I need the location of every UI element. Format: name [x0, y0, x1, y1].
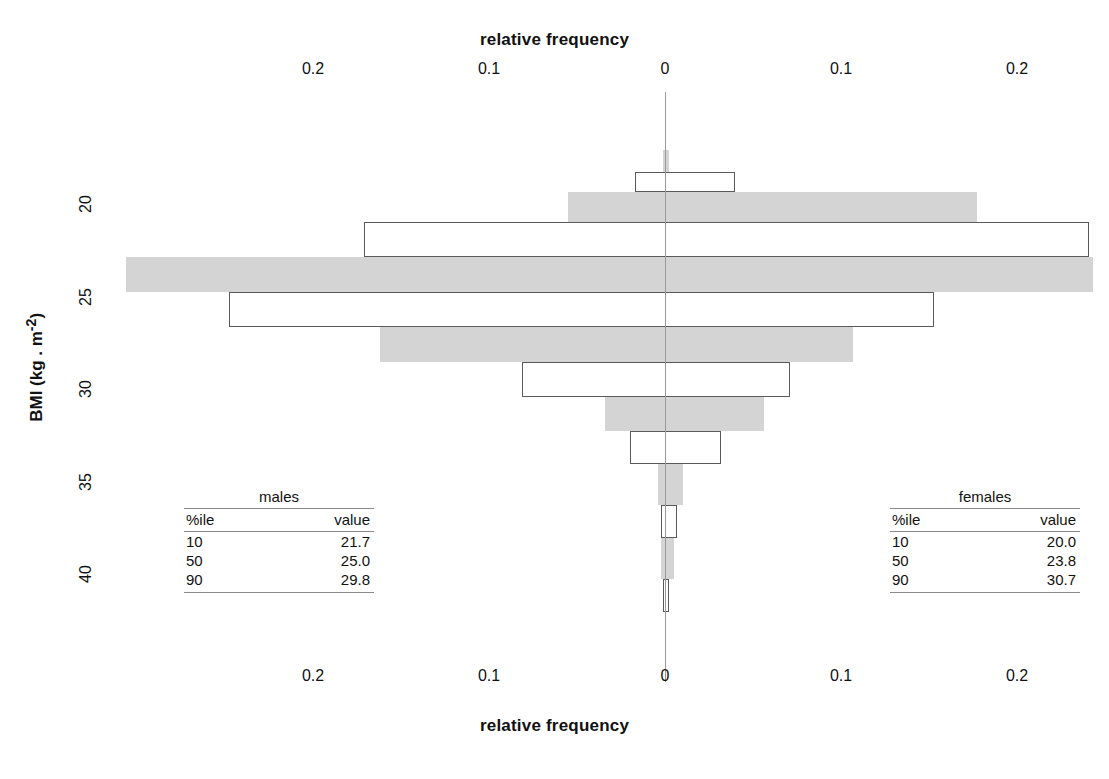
bottom-axis-title: relative frequency: [0, 716, 1109, 736]
x-tick-bottom-3: 0.1: [801, 667, 881, 685]
males-header-pctile: %ile: [184, 509, 271, 532]
males-pctile-cell: 50: [184, 551, 271, 570]
females-header-value: value: [977, 509, 1080, 532]
females-pctile-cell: 50: [890, 551, 977, 570]
x-tick-top-0: 0.2: [273, 60, 353, 78]
histogram-bar: [229, 292, 935, 327]
histogram-bar: [661, 538, 673, 579]
females-percentile-table: females %ile value 1020.05023.89030.7: [890, 488, 1080, 593]
females-value-cell: 23.8: [977, 551, 1080, 570]
top-axis-title: relative frequency: [0, 30, 1109, 50]
x-tick-bottom-4: 0.2: [977, 667, 1057, 685]
table-row: 5025.0: [184, 551, 374, 570]
histogram-bar: [522, 362, 790, 397]
males-header-value: value: [271, 509, 374, 532]
histogram-bar: [605, 397, 763, 430]
histogram-bar: [630, 431, 722, 464]
histogram-bar: [568, 192, 976, 222]
females-header-pctile: %ile: [890, 509, 977, 532]
males-table-title: males: [184, 488, 374, 508]
x-tick-top-4: 0.2: [977, 60, 1057, 78]
x-tick-top-1: 0.1: [449, 60, 529, 78]
males-pctile-cell: 10: [184, 532, 271, 552]
table-row: 5023.8: [890, 551, 1080, 570]
table-row: 1021.7: [184, 532, 374, 552]
x-tick-bottom-1: 0.1: [449, 667, 529, 685]
females-table-body: 1020.05023.89030.7: [890, 532, 1080, 593]
females-value-cell: 30.7: [977, 570, 1080, 593]
females-value-cell: 20.0: [977, 532, 1080, 552]
histogram-bar: [126, 257, 1092, 292]
table-row: 9030.7: [890, 570, 1080, 593]
males-table-body: 1021.75025.09029.8: [184, 532, 374, 593]
x-tick-bottom-2: 0: [625, 667, 705, 685]
zero-axis-line: [665, 92, 666, 682]
females-pctile-cell: 10: [890, 532, 977, 552]
males-value-cell: 21.7: [271, 532, 374, 552]
table-row: 1020.0: [890, 532, 1080, 552]
histogram-bar: [380, 327, 853, 362]
histogram-bar: [661, 505, 677, 538]
males-pctile-cell: 90: [184, 570, 271, 593]
histogram-bar: [364, 222, 1089, 257]
histogram-bar: [635, 172, 735, 192]
x-tick-top-3: 0.1: [801, 60, 881, 78]
histogram-bar: [658, 464, 683, 505]
table-row: 9029.8: [184, 570, 374, 593]
females-table-title: females: [890, 488, 1080, 508]
x-tick-bottom-0: 0.2: [273, 667, 353, 685]
males-value-cell: 29.8: [271, 570, 374, 593]
chart-canvas: relative frequency 0.20.100.10.2 BMI (kg…: [0, 0, 1109, 779]
males-value-cell: 25.0: [271, 551, 374, 570]
males-percentile-table: males %ile value 1021.75025.09029.8: [184, 488, 374, 593]
females-pctile-cell: 90: [890, 570, 977, 593]
x-tick-top-2: 0: [625, 60, 705, 78]
